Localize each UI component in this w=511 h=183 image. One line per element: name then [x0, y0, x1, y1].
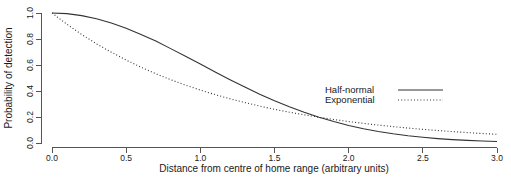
x-axis-label: Distance from centre of home range (arbi… — [159, 163, 389, 174]
legend: Half-normal Exponential — [325, 84, 443, 105]
x-tick-label: 0.5 — [120, 153, 132, 163]
chart-figure: 0.00.20.40.60.81.0 0.00.51.01.52.02.53.0… — [0, 0, 511, 183]
x-tick-label: 0.0 — [46, 153, 58, 163]
x-tick-label: 3.0 — [491, 153, 503, 163]
x-tick-label: 1.5 — [269, 153, 281, 163]
y-tick-label: 0.8 — [25, 33, 35, 45]
series-line-exponential — [52, 13, 497, 134]
y-tick-label: 0.0 — [25, 137, 35, 149]
x-tick-label: 1.0 — [194, 153, 206, 163]
y-tick-label: 0.4 — [25, 85, 35, 97]
x-tick-label: 2.0 — [343, 153, 355, 163]
detection-function-plot: 0.00.20.40.60.81.0 0.00.51.01.52.02.53.0… — [0, 0, 511, 183]
y-tick-label: 0.6 — [25, 59, 35, 71]
y-tick-label: 1.0 — [25, 7, 35, 19]
x-axis-ticks: 0.00.51.01.52.02.53.0 — [46, 148, 503, 164]
y-axis-ticks: 0.00.20.40.60.81.0 — [25, 7, 42, 149]
series-line-half-normal — [52, 13, 497, 142]
y-tick-label: 0.2 — [25, 111, 35, 123]
x-tick-label: 2.5 — [417, 153, 429, 163]
legend-label-exponential: Exponential — [325, 94, 375, 105]
y-axis-label: Probability of detection — [3, 27, 14, 128]
